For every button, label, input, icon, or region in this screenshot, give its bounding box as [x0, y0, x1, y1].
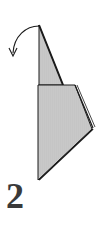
curved-fold-arrow-icon — [9, 26, 39, 56]
upper-flap — [39, 25, 63, 85]
lower-body — [38, 85, 95, 180]
step-number: 2 — [6, 178, 24, 213]
